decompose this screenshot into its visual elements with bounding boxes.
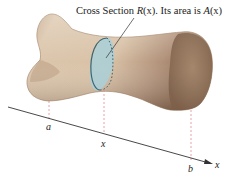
- label-x: x: [100, 138, 106, 149]
- label-a: a: [46, 121, 51, 132]
- x-axis-line: [8, 107, 209, 163]
- x-axis-arrow-icon: [204, 159, 213, 164]
- cross-section-caption: Cross Section R(x). Its area is A(x): [76, 5, 223, 17]
- label-b: b: [188, 163, 193, 174]
- axis-label-x: x: [214, 159, 220, 170]
- bone-solid: [27, 14, 212, 110]
- solid-cross-section-diagram: Cross Section R(x). Its area is A(x) a x…: [0, 0, 227, 175]
